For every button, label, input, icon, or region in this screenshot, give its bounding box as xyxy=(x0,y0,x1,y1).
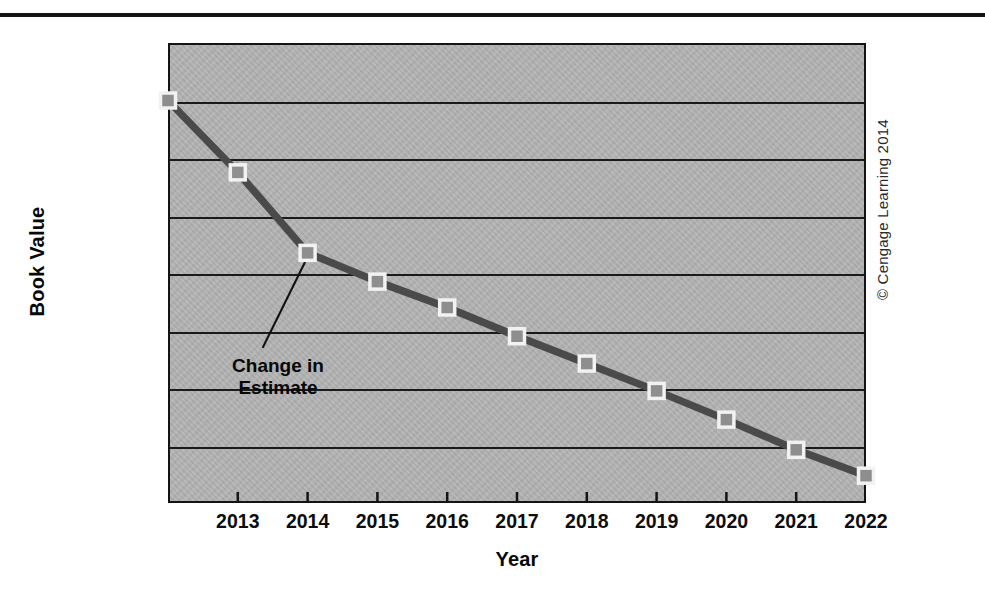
chart-figure: 020,00040,00060,00080,000100,000120,0001… xyxy=(0,0,985,600)
gridline xyxy=(170,332,864,334)
x-axis-tick-label: 2022 xyxy=(821,512,911,532)
y-axis-title: Book Value xyxy=(26,162,49,362)
y-axis-tick-labels: 020,00040,00060,00080,000100,000120,0001… xyxy=(0,0,160,600)
gridline xyxy=(170,159,864,161)
annotation-change-in-estimate: Change in Estimate xyxy=(193,355,363,399)
x-axis-title: Year xyxy=(168,548,866,571)
copyright-credit: © Cengage Learning 2014 xyxy=(874,119,891,300)
plot-background-texture xyxy=(170,45,864,501)
gridline xyxy=(170,102,864,104)
gridline xyxy=(170,217,864,219)
plot-area xyxy=(168,43,866,503)
gridline xyxy=(170,274,864,276)
gridline xyxy=(170,447,864,449)
